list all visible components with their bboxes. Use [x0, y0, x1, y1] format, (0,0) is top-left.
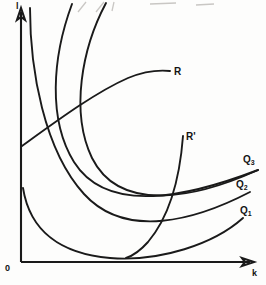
isoquant-label-q2: Q2 — [236, 180, 248, 191]
curves-group — [22, 3, 258, 259]
y-axis-label: l — [16, 2, 19, 11]
page-bleed-marks — [78, 2, 214, 12]
isoquant-label-q1-base: Q — [240, 205, 248, 216]
isoquant-label-q1: Q1 — [240, 206, 252, 217]
axes-group — [17, 8, 254, 266]
isoquant-label-q3-subscript: 3 — [251, 159, 255, 166]
isoquant-curve-q1 — [23, 188, 243, 259]
isoquant-label-q3: Q3 — [243, 155, 255, 166]
expansion-path-curve-r-prime — [126, 136, 183, 258]
isoquant-label-q1-subscript: 1 — [248, 210, 252, 217]
isoquant-label-q2-base: Q — [236, 179, 244, 190]
x-axis-label: k — [252, 269, 257, 278]
isoquant-diagram: l k 0 R R' Q3 Q2 Q1 — [0, 0, 266, 285]
isoquant-curve-q3 — [56, 4, 258, 196]
expansion-path-label-r: R — [174, 67, 181, 77]
isoquant-label-q2-subscript: 2 — [244, 184, 248, 191]
expansion-path-curve-r — [22, 71, 170, 146]
r-prime-base: R' — [186, 131, 196, 142]
expansion-path-label-r-prime: R' — [186, 132, 196, 142]
isoquant-curve-q2 — [30, 8, 250, 221]
origin-label: 0 — [5, 264, 10, 273]
isoquant-curve-q3-outer — [80, 3, 258, 196]
isoquant-label-q3-base: Q — [243, 154, 251, 165]
diagram-canvas — [0, 0, 266, 285]
